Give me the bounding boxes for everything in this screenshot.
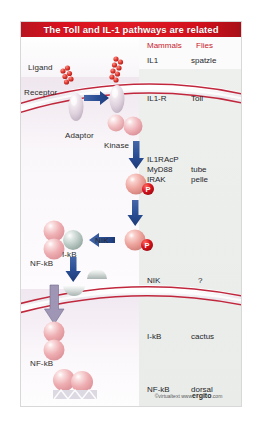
comparison-mammals-3: MyD88 [147,165,172,174]
comparison-flies-6: cactus [191,332,214,341]
receptor-activated [110,85,125,113]
comparison-flies-5: ? [198,276,202,285]
diagram-canvas: P P [21,37,241,406]
label-adaptor: Adaptor [65,131,94,140]
column-header-flies: Flies [196,41,213,50]
comparison-mammals-0: IL1 [147,56,158,65]
svg-text:P: P [144,241,149,250]
figure-title-bar: The Toll and IL-1 pathways are related [21,22,241,37]
phospho-group-nik: P [141,239,153,251]
comparison-mammals-6: I-kB [147,332,161,341]
comparison-flies-3: tube [191,165,207,174]
figure-panel: The Toll and IL-1 pathways are related [21,22,241,406]
comparison-mammals-2: IL1RAcP [147,155,179,164]
label-nfkb-nucleus: NF-kB [30,359,53,368]
credit-copyright: ©virtualtext [155,393,180,399]
label-ikb: I-kB [62,250,77,259]
svg-text:P: P [145,185,150,194]
comparison-flies-0: spatzle [191,56,216,65]
column-header-mammals: Mammals [147,41,182,50]
comparison-mammals-5: NIK [147,276,160,285]
label-receptor: Receptor [24,88,57,97]
credit-line: ©virtualtext wwwergito.com [136,392,241,399]
label-kinase: Kinase [104,141,129,150]
label-nfkb-cytoplasm: NF-kB [30,259,53,268]
comparison-mammals-4: IRAK [147,175,166,184]
label-ligand: Ligand [28,63,53,72]
comparison-flies-4: pelle [191,175,208,184]
credit-brand: ergito [192,392,211,399]
comparison-mammals-1: IL1-R [147,94,167,103]
credit-www: www [181,393,192,399]
figure-title: The Toll and IL-1 pathways are related [43,24,218,35]
phospho-group-irak: P [142,183,154,195]
receptor-unbound [69,93,84,121]
comparison-flies-1: Toll [191,94,203,103]
credit-tld: .com [211,393,222,399]
label-nik: NIK [95,236,109,245]
